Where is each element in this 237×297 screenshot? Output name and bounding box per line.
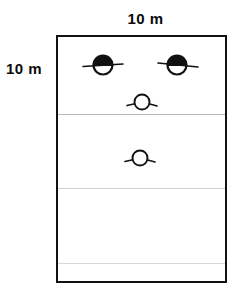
symbol-open-circle-1 <box>120 87 164 117</box>
left-dimension-label: 10 m <box>6 61 42 76</box>
plot-frame <box>56 35 227 283</box>
top-dimension-label: 10 m <box>0 11 237 26</box>
transect-line-2 <box>58 188 225 189</box>
symbol-half-filled-circle-2 <box>155 50 199 80</box>
symbol-half-filled-circle-1 <box>81 50 125 80</box>
quadrat-plot-figure: 10 m 10 m <box>0 0 237 297</box>
transect-line-3 <box>58 263 225 264</box>
symbol-open-circle-2 <box>118 143 162 173</box>
